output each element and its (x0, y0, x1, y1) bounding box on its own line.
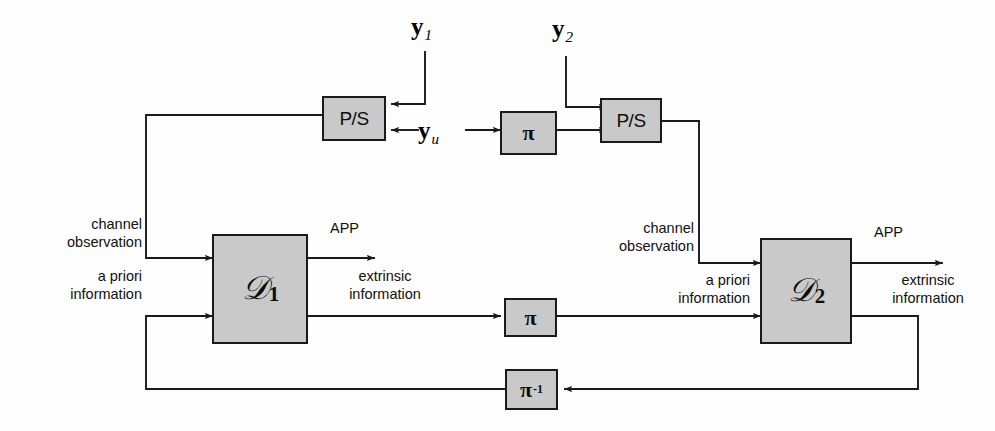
signal-y2-subscript: 2 (566, 29, 574, 45)
label-channel-observation-left-line1: channel (14, 216, 142, 234)
box-pi-top-label: π (522, 120, 534, 146)
box-pi-inverse-label: π (520, 377, 532, 403)
box-pi-inverse[interactable]: π-1 (505, 369, 558, 410)
signal-yu-subscript: u (432, 131, 440, 147)
label-channel-observation-right-line2: observation (566, 238, 694, 256)
label-a-priori-left-line2: information (14, 286, 142, 304)
box-ps-right[interactable]: P/S (600, 98, 662, 143)
label-channel-observation-right-line1: channel (566, 220, 694, 238)
box-decoder-1-subscript: 1 (269, 282, 280, 307)
box-pi-inverse-exponent: -1 (533, 382, 543, 397)
label-extrinsic-right-line2: information (862, 290, 994, 308)
label-a-priori-right-line1: a priori (622, 272, 750, 290)
box-pi-bottom-label: π (524, 305, 536, 331)
wire-y1-to-ps-left (392, 52, 425, 104)
box-pi-top[interactable]: π (500, 111, 557, 155)
signal-y2-symbol: y (552, 15, 565, 42)
box-ps-left[interactable]: P/S (322, 96, 386, 141)
box-ps-left-label: P/S (339, 108, 368, 130)
box-decoder-1[interactable]: 𝒟1 (212, 234, 308, 344)
label-a-priori-right-line2: information (622, 290, 750, 308)
label-extrinsic-left-line2: information (318, 286, 452, 304)
diagram-canvas: P/S π P/S 𝒟1 𝒟2 π π-1 y1 y2 yu channel o… (0, 0, 995, 431)
label-channel-observation-left-line2: observation (14, 234, 142, 252)
box-decoder-2-label: 𝒟 (788, 272, 814, 310)
label-channel-observation-right: channel observation (566, 220, 694, 255)
signal-y1-subscript: 1 (425, 27, 433, 43)
wire-pi-inverse-to-decoder-1-apriori (146, 316, 505, 389)
wire-layer (0, 0, 995, 431)
box-ps-right-label: P/S (616, 110, 645, 132)
signal-label-y1: y1 (411, 12, 431, 43)
wire-decoder-2-extrinsic-to-pi-inverse (565, 316, 918, 389)
label-a-priori-information-left: a priori information (14, 268, 142, 303)
label-extrinsic-information-left: extrinsic information (318, 268, 452, 303)
label-a-priori-information-right: a priori information (622, 272, 750, 307)
label-extrinsic-right-line1: extrinsic (862, 272, 994, 290)
box-pi-bottom[interactable]: π (504, 298, 557, 337)
label-extrinsic-information-right: extrinsic information (862, 272, 994, 307)
signal-label-yu: yu (418, 116, 438, 147)
box-decoder-1-label: 𝒟 (242, 270, 268, 308)
box-decoder-2-subscript: 2 (815, 284, 826, 309)
signal-y1-symbol: y (411, 13, 424, 40)
signal-yu-symbol: y (418, 117, 431, 144)
label-app-right: APP (874, 224, 903, 242)
label-app-left: APP (330, 220, 359, 238)
label-extrinsic-left-line1: extrinsic (318, 268, 452, 286)
label-channel-observation-left: channel observation (14, 216, 142, 251)
label-a-priori-left-line1: a priori (14, 268, 142, 286)
box-decoder-2[interactable]: 𝒟2 (760, 238, 852, 344)
signal-label-y2: y2 (552, 14, 572, 45)
